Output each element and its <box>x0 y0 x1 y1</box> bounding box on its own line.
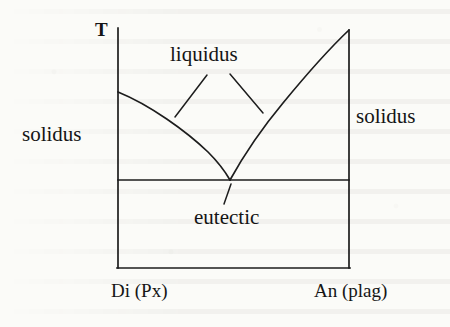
y-axis-label-temperature: T <box>95 20 108 39</box>
liquidus-label: liquidus <box>170 44 238 65</box>
solidus-label-right: solidus <box>356 106 416 127</box>
liquidus-leader-right <box>230 74 263 113</box>
liquidus-leader-left <box>175 75 207 117</box>
eutectic-leader <box>224 184 231 204</box>
solidus-label-left: solidus <box>22 124 82 145</box>
phase-diagram-figure: T liquidus solidus solidus eutectic Di (… <box>0 0 450 327</box>
x-axis-label-right-endmember: An (plag) <box>314 281 387 300</box>
x-axis-label-left-endmember: Di (Px) <box>111 281 167 300</box>
eutectic-label: eutectic <box>194 207 259 228</box>
liquidus-curve-right <box>230 30 349 180</box>
liquidus-curve-left <box>118 92 230 180</box>
